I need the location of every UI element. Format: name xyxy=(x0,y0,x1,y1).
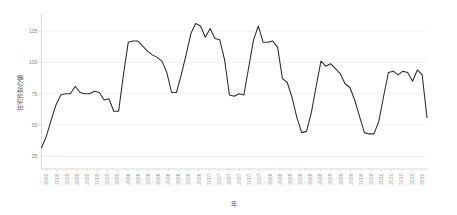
y-tick-label: 125 xyxy=(29,28,38,34)
x-tick-label: 2005 xyxy=(84,173,90,184)
y-tick-label: 75 xyxy=(32,91,38,97)
x-tick-label: 2005 xyxy=(74,173,80,184)
x-tick-labels: 2005200520052005200520052005200520062006… xyxy=(43,173,424,184)
x-tick-label: 2005 xyxy=(104,173,110,184)
chart-container: 255075100125 200520052005200520052005200… xyxy=(0,0,457,215)
x-tick-label: 2007 xyxy=(246,173,252,184)
x-tick-label: 2005 xyxy=(43,173,49,184)
x-tick-label: 2010 xyxy=(388,173,394,184)
x-tick-label: 2006 xyxy=(145,173,151,184)
x-tick-label: 2008 xyxy=(277,173,283,184)
x-tick-label: 2005 xyxy=(114,173,120,184)
x-tick-label: 2010 xyxy=(378,173,384,184)
x-tick-label: 2009 xyxy=(368,173,374,184)
x-tick-label: 2007 xyxy=(206,173,212,184)
x-tick-label: 2010 xyxy=(419,173,425,184)
line-chart: 255075100125 200520052005200520052005200… xyxy=(0,0,457,215)
x-tick-label: 2007 xyxy=(236,173,242,184)
x-tick-label: 2008 xyxy=(317,173,323,184)
y-tick-label: 50 xyxy=(32,122,38,128)
x-tick-label: 2010 xyxy=(398,173,404,184)
x-tick-label: 2009 xyxy=(338,173,344,184)
x-tick-label: 2010 xyxy=(409,173,415,184)
x-tick-label: 2009 xyxy=(327,173,333,184)
data-series-line xyxy=(42,24,428,148)
y-axis-title: 住宅件数の値 xyxy=(16,75,24,111)
x-tick-label: 2008 xyxy=(297,173,303,184)
x-tick-label: 2005 xyxy=(64,173,70,184)
x-tick-label: 2006 xyxy=(155,173,161,184)
x-tick-label: 2006 xyxy=(125,173,131,184)
x-tick-label: 2008 xyxy=(287,173,293,184)
x-tick-label: 2006 xyxy=(135,173,141,184)
gridlines xyxy=(42,31,428,156)
x-axis-title: 年 xyxy=(231,200,237,208)
x-tick-label: 2009 xyxy=(358,173,364,184)
x-tick-label: 2008 xyxy=(307,173,313,184)
x-tick-label: 2005 xyxy=(94,173,100,184)
x-tick-label: 2007 xyxy=(216,173,222,184)
y-tick-label: 100 xyxy=(29,59,38,65)
y-tick-labels: 255075100125 xyxy=(29,28,38,159)
x-tick-label: 2007 xyxy=(226,173,232,184)
x-tick-label: 2006 xyxy=(175,173,181,184)
x-tick-label: 2009 xyxy=(348,173,354,184)
x-tick-label: 2005 xyxy=(54,173,60,184)
y-tick-label: 25 xyxy=(32,153,38,159)
x-tick-label: 2007 xyxy=(256,173,262,184)
x-tick-label: 2006 xyxy=(185,173,191,184)
x-tick-label: 2006 xyxy=(196,173,202,184)
x-tick-label: 2008 xyxy=(267,173,273,184)
x-tick-label: 2006 xyxy=(165,173,171,184)
